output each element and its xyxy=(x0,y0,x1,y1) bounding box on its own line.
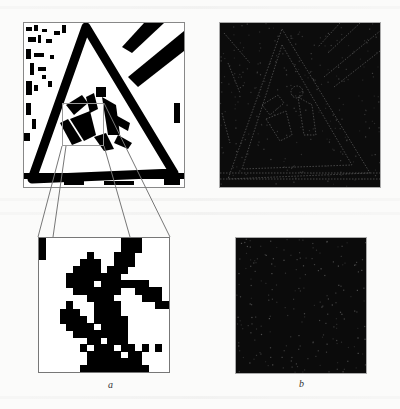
pixel-cell xyxy=(121,266,128,274)
pixel-cell xyxy=(128,259,135,267)
pixel-cell xyxy=(162,301,169,309)
bleed-through-text-line xyxy=(0,198,400,201)
warning-sign-graphic xyxy=(24,23,184,187)
pixel-cell xyxy=(135,245,142,253)
inset-edge-map xyxy=(236,238,366,373)
pixel-cell xyxy=(114,287,121,295)
bleed-through-text-line xyxy=(0,212,400,215)
edge-map-graphic xyxy=(220,23,380,187)
panel-label-a: a xyxy=(108,379,113,390)
binarized-sign-image xyxy=(23,22,185,188)
inset-selection-rectangle xyxy=(62,103,104,146)
inset-edge-response xyxy=(235,237,367,374)
edge-response-image xyxy=(219,22,381,188)
pixel-cell xyxy=(155,344,162,352)
bleed-through-text-line xyxy=(0,396,400,399)
pixel-cell xyxy=(142,344,149,352)
bleed-through-text-line xyxy=(0,6,400,9)
panel-label-b: b xyxy=(299,378,304,389)
enlarged-inset-pixels xyxy=(38,237,170,373)
pixel-grid xyxy=(39,238,169,372)
pixel-cell xyxy=(142,365,149,373)
pixel-cell xyxy=(39,252,46,260)
